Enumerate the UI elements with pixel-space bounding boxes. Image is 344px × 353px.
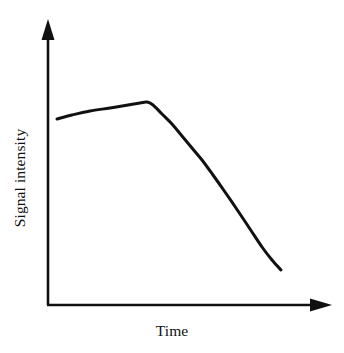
x-axis-label: Time xyxy=(0,322,344,340)
y-axis-label: Signal intensity xyxy=(11,129,29,227)
y-axis-label-container: Signal intensity xyxy=(0,0,40,353)
x-axis-arrow-icon xyxy=(310,299,332,312)
signal-decay-curve xyxy=(57,102,281,270)
plot-canvas xyxy=(0,0,344,353)
y-axis-arrow-icon xyxy=(42,19,55,40)
figure-root: Signal intensity Time xyxy=(0,0,344,353)
